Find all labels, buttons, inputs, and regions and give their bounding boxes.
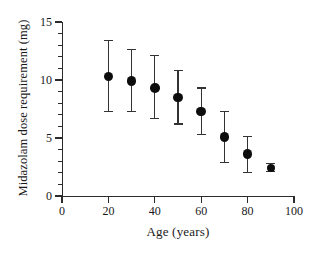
x-tick-label: 80	[228, 205, 268, 217]
x-tick-major	[201, 196, 202, 203]
y-tick-minor	[58, 68, 63, 69]
data-point-marker	[220, 132, 230, 142]
error-bar-cap-lower	[104, 111, 113, 112]
error-bar-cap-upper	[174, 70, 183, 71]
x-tick-major	[154, 196, 155, 203]
y-tick-major	[55, 21, 62, 22]
error-bar-cap-upper	[127, 49, 136, 50]
data-point-marker	[173, 93, 183, 103]
y-tick-minor	[58, 114, 63, 115]
y-tick-major	[55, 79, 62, 80]
y-tick-label: 10	[22, 74, 52, 86]
x-axis-title: Age (years)	[62, 224, 294, 240]
chart-figure: Midazolam dose requirement (mg) 05101502…	[0, 0, 322, 255]
y-tick-minor	[58, 126, 63, 127]
y-tick-minor	[58, 172, 63, 173]
x-tick-label: 100	[274, 205, 314, 217]
error-bar-cap-lower	[197, 134, 206, 135]
y-tick-minor	[58, 56, 63, 57]
x-tick-label: 20	[88, 205, 128, 217]
data-point-marker	[243, 149, 253, 159]
y-tick-label: 15	[22, 16, 52, 28]
error-bar-cap-upper	[243, 136, 252, 137]
x-tick-major	[108, 196, 109, 203]
x-tick-label: 40	[135, 205, 175, 217]
x-tick-label: 0	[42, 205, 82, 217]
data-point-marker	[104, 72, 114, 82]
y-tick-minor	[58, 149, 63, 150]
y-tick-minor	[58, 161, 63, 162]
y-axis-title: Midazolam dose requirement (mg)	[14, 8, 32, 208]
error-bar-cap-lower	[220, 162, 229, 163]
error-bar-cap-lower	[174, 123, 183, 124]
error-bar-cap-lower	[243, 172, 252, 173]
y-tick-minor	[58, 103, 63, 104]
y-tick-minor	[58, 184, 63, 185]
error-bar-cap-upper	[220, 111, 229, 112]
x-tick-major	[247, 196, 248, 203]
y-axis-line	[62, 22, 63, 197]
data-point-marker	[127, 76, 137, 86]
data-point-marker	[150, 83, 160, 93]
y-tick-minor	[58, 45, 63, 46]
error-bar-cap-lower	[127, 111, 136, 112]
x-tick-major	[293, 196, 294, 203]
x-tick-label: 60	[181, 205, 221, 217]
error-bar-cap-upper	[150, 55, 159, 56]
x-tick-major	[61, 196, 62, 203]
error-bar-cap-upper	[197, 87, 206, 88]
y-tick-minor	[58, 33, 63, 34]
y-tick-label: 0	[22, 190, 52, 202]
data-point-marker	[196, 107, 206, 117]
y-tick-major	[55, 137, 62, 138]
y-tick-label: 5	[22, 132, 52, 144]
error-bar-cap-lower	[150, 118, 159, 119]
y-tick-minor	[58, 91, 63, 92]
x-axis-line	[62, 196, 295, 197]
data-point-marker	[267, 164, 275, 172]
error-bar-cap-upper	[104, 40, 113, 41]
